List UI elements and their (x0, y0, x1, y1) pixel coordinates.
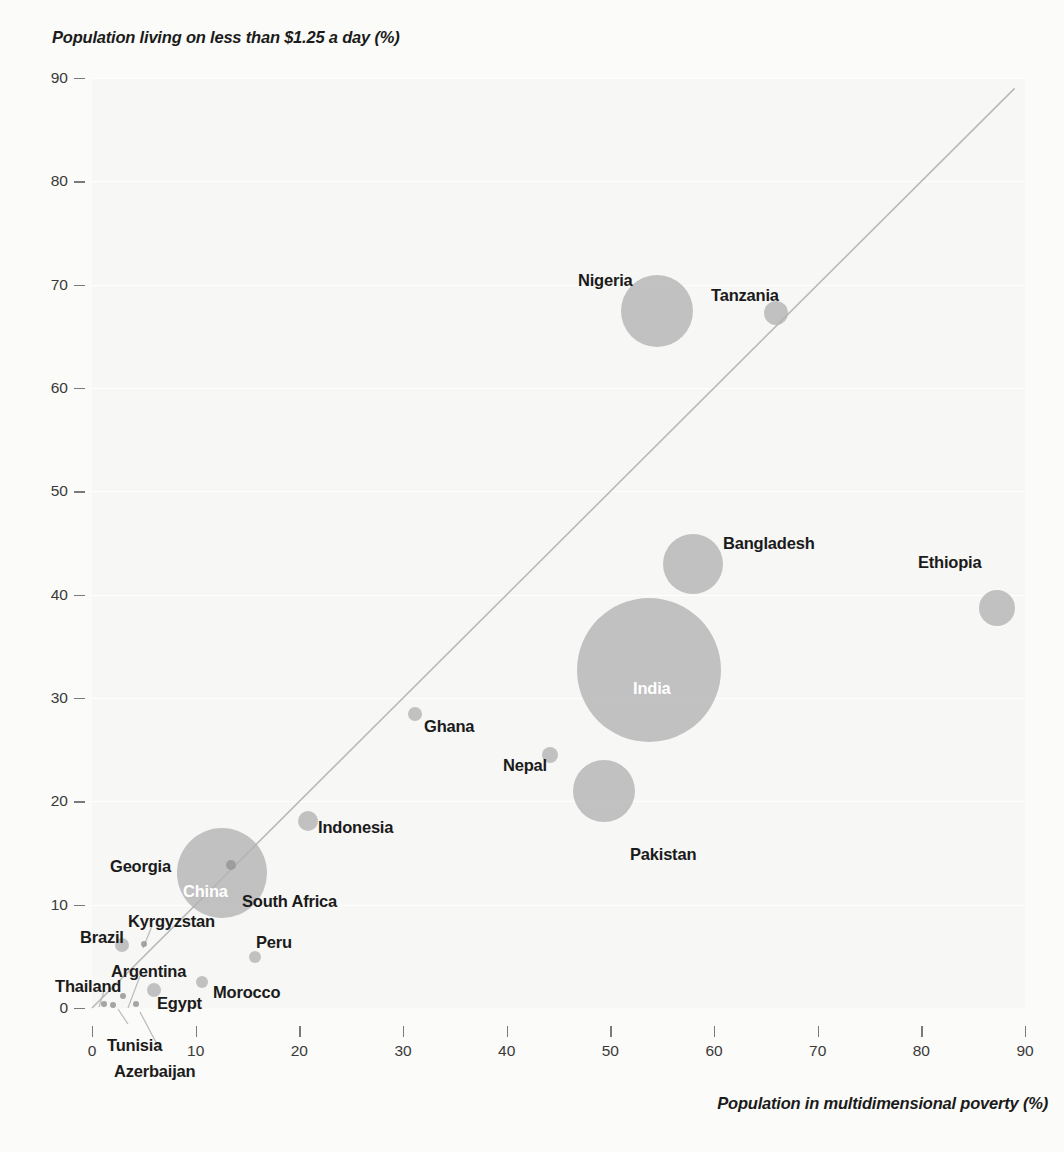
bubble-thailand[interactable] (101, 1001, 107, 1007)
bubble-kyrgyzstan[interactable] (141, 941, 147, 947)
gridline-y-60 (92, 388, 1025, 389)
label-bangladesh: Bangladesh (723, 534, 815, 553)
x-tick-mark-0 (92, 1026, 93, 1037)
x-tick-mark-80 (921, 1026, 922, 1037)
bubble-tunisia[interactable] (110, 1002, 116, 1008)
bubble-chart: Population living on less than $1.25 a d… (0, 0, 1064, 1152)
label-nigeria: Nigeria (578, 271, 633, 290)
x-tick-label-80: 80 (898, 1042, 944, 1060)
x-tick-label-30: 30 (380, 1042, 426, 1060)
gridline-y-70 (92, 285, 1025, 286)
y-tick-label-60: 60 (22, 379, 68, 397)
x-tick-mark-60 (714, 1026, 715, 1037)
bubble-south-africa[interactable] (226, 860, 236, 870)
bubble-bangladesh[interactable] (663, 534, 723, 594)
y-tick-label-50: 50 (22, 482, 68, 500)
y-tick-label-20: 20 (22, 792, 68, 810)
x-tick-mark-10 (196, 1026, 197, 1037)
y-tick-mark-80 (74, 181, 85, 182)
label-morocco: Morocco (213, 983, 280, 1002)
y-tick-mark-60 (74, 388, 85, 389)
y-tick-label-0: 0 (22, 999, 68, 1017)
label-azerbaijan: Azerbaijan (114, 1062, 195, 1081)
y-tick-mark-0 (74, 1008, 85, 1009)
y-tick-mark-40 (74, 595, 85, 596)
gridline-y-20 (92, 801, 1025, 802)
label-ethiopia: Ethiopia (918, 553, 981, 572)
y-tick-mark-50 (74, 491, 85, 492)
label-peru: Peru (256, 933, 292, 952)
bubble-ethiopia[interactable] (979, 590, 1015, 626)
x-axis-title: Population in multidimensional poverty (… (717, 1094, 1048, 1113)
x-tick-label-40: 40 (484, 1042, 530, 1060)
label-pakistan: Pakistan (630, 845, 696, 864)
label-indonesia: Indonesia (318, 818, 393, 837)
bubble-peru[interactable] (249, 951, 261, 963)
gridline-y-30 (92, 698, 1025, 699)
label-tanzania: Tanzania (711, 286, 779, 305)
y-tick-label-30: 30 (22, 689, 68, 707)
gridline-y-40 (92, 595, 1025, 596)
label-argentina: Argentina (111, 962, 186, 981)
bubble-ghana[interactable] (408, 707, 422, 721)
bubble-indonesia[interactable] (298, 811, 318, 831)
x-tick-label-70: 70 (795, 1042, 841, 1060)
x-tick-mark-40 (507, 1026, 508, 1037)
gridline-y-50 (92, 491, 1025, 492)
y-tick-mark-20 (74, 801, 85, 802)
label-south-africa: South Africa (242, 892, 337, 911)
label-nepal: Nepal (503, 756, 547, 775)
x-tick-mark-90 (1025, 1026, 1026, 1037)
x-tick-label-50: 50 (587, 1042, 633, 1060)
leader-line-tunisia (118, 1009, 128, 1024)
y-tick-label-40: 40 (22, 586, 68, 604)
x-tick-label-90: 90 (1002, 1042, 1048, 1060)
bubble-azerbaijan[interactable] (133, 1001, 139, 1007)
y-tick-mark-30 (74, 698, 85, 699)
label-china: China (183, 882, 228, 901)
x-tick-label-10: 10 (173, 1042, 219, 1060)
x-tick-label-60: 60 (691, 1042, 737, 1060)
label-ghana: Ghana (424, 717, 474, 736)
y-tick-label-80: 80 (22, 172, 68, 190)
label-kyrgyzstan: Kyrgyzstan (128, 912, 215, 931)
y-tick-label-70: 70 (22, 276, 68, 294)
gridline-y-90 (92, 78, 1025, 79)
y-axis-title: Population living on less than $1.25 a d… (52, 28, 399, 47)
x-tick-mark-50 (610, 1026, 611, 1037)
label-georgia: Georgia (110, 857, 171, 876)
x-tick-mark-70 (818, 1026, 819, 1037)
bubble-morocco[interactable] (196, 976, 208, 988)
x-tick-mark-30 (403, 1026, 404, 1037)
y-tick-label-10: 10 (22, 896, 68, 914)
y-tick-mark-70 (74, 285, 85, 286)
bubble-pakistan[interactable] (573, 760, 635, 822)
x-tick-label-20: 20 (276, 1042, 322, 1060)
bubble-india[interactable] (577, 598, 721, 742)
y-tick-mark-90 (74, 78, 85, 79)
y-tick-mark-10 (74, 905, 85, 906)
label-thailand: Thailand (55, 977, 121, 996)
label-brazil: Brazil (80, 928, 124, 947)
x-tick-mark-20 (299, 1026, 300, 1037)
label-india: India (633, 679, 671, 698)
gridline-y-80 (92, 181, 1025, 182)
label-tunisia: Tunisia (107, 1036, 162, 1055)
y-tick-label-90: 90 (22, 69, 68, 87)
label-egypt: Egypt (157, 994, 202, 1013)
